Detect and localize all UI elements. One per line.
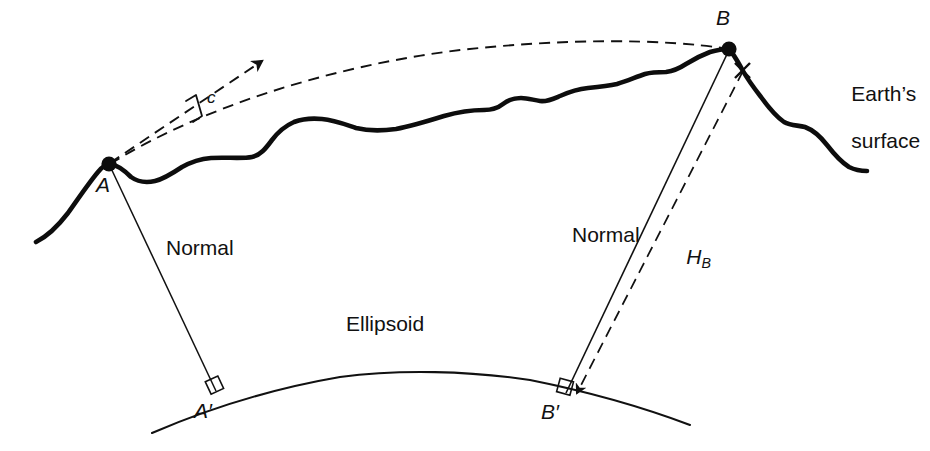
label-normal-b: Normal [572,223,640,247]
label-angle-c: c [207,88,216,107]
label-height-hb-main: H [686,245,701,268]
ellipsoid-curve [152,372,690,433]
label-point-a-prime: A′ [194,399,212,423]
label-height-hb-subscript: B [702,255,712,271]
geodesy-diagram-svg [0,0,930,451]
label-point-b: B [716,6,730,30]
normal-line-a [109,164,216,391]
label-normal-a: Normal [166,236,234,260]
station-dot-b [721,41,736,56]
label-earth-surface-line1: Earth’s [851,82,916,105]
label-height-hb: HB [663,221,711,294]
label-point-a: A [96,173,110,197]
earth-surface-profile [36,49,867,242]
station-dot-a [101,156,116,171]
label-ellipsoid: Ellipsoid [346,312,424,336]
diagram-canvas: A B A′ B′ c Normal Normal HB Ellipsoid E… [0,0,930,451]
label-earth-surface-line2: surface [851,129,920,152]
label-point-b-prime: B′ [541,400,559,424]
tangent-dashed-ray [110,61,262,163]
right-angle-marker-a-prime [205,376,223,394]
cross-mark-icon [735,63,750,78]
label-earth-surface: Earth’s surface [828,58,920,176]
angle-bracket-c [186,95,202,122]
geodesic-dashed-arc [110,41,729,164]
